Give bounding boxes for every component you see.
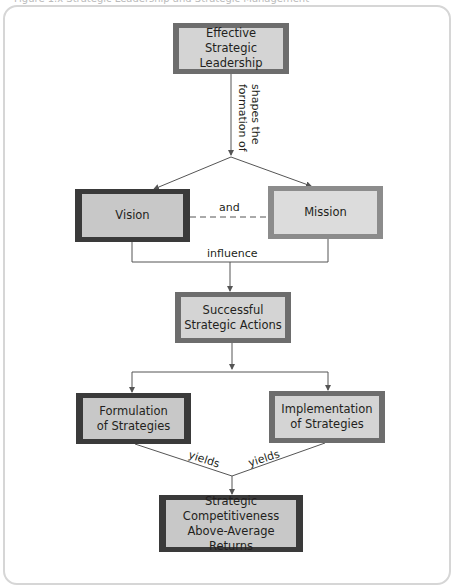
node-effective-strategic-leadership: Effective Strategic Leadership bbox=[173, 23, 289, 74]
node-label: Mission bbox=[304, 205, 347, 220]
node-formulation-of-strategies: Formulation of Strategies bbox=[76, 393, 191, 444]
node-mission: Mission bbox=[268, 186, 383, 239]
node-implementation-of-strategies: Implementation of Strategies bbox=[269, 391, 385, 443]
node-strategic-competitiveness: Strategic Competitiveness Above-Average … bbox=[159, 495, 303, 552]
node-label: Effective Strategic Leadership bbox=[179, 26, 283, 71]
node-label: Successful Strategic Actions bbox=[184, 303, 282, 333]
node-label: Vision bbox=[115, 208, 149, 223]
node-successful-strategic-actions: Successful Strategic Actions bbox=[175, 292, 291, 343]
node-vision: Vision bbox=[75, 189, 190, 242]
node-label: Strategic Competitiveness Above-Average … bbox=[166, 494, 296, 554]
edge-label-shapes: shapes the formation of bbox=[236, 84, 262, 152]
edge-label-and: and bbox=[219, 201, 240, 214]
node-label: Formulation of Strategies bbox=[97, 404, 170, 434]
edge-label-influence: influence bbox=[207, 247, 257, 260]
node-label: Implementation of Strategies bbox=[281, 402, 372, 432]
